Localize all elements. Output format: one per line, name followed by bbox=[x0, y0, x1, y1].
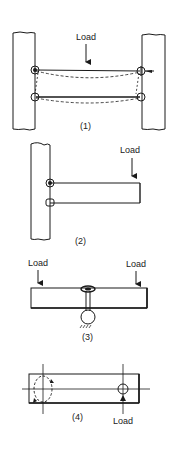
deflected-top-dashed bbox=[36, 71, 140, 78]
panel-caption: (1) bbox=[80, 121, 91, 131]
load-label-left: Load bbox=[28, 258, 48, 268]
right-plate bbox=[142, 34, 165, 130]
panel-caption: (3) bbox=[82, 332, 93, 342]
panel-1: Load (1) bbox=[13, 32, 165, 131]
load-label: Load bbox=[120, 145, 140, 155]
load-arrow-icon bbox=[120, 395, 126, 401]
pivot-support-icon bbox=[81, 310, 95, 324]
bolted-joint-diagram: Load (1) Load (2) Load Load (3) bbox=[0, 0, 172, 458]
top-member bbox=[36, 70, 140, 71]
left-plate bbox=[13, 32, 35, 130]
rotation-arrow-icon bbox=[50, 379, 54, 383]
right-dashed-link bbox=[136, 73, 139, 94]
panel-2: Load (2) bbox=[31, 143, 140, 246]
load-label: Load bbox=[113, 416, 133, 426]
deflected-bottom-dashed bbox=[36, 98, 140, 103]
load-label: Load bbox=[76, 32, 96, 42]
plate bbox=[31, 143, 50, 240]
bar bbox=[31, 288, 147, 308]
panel-4: Load (4) bbox=[22, 364, 150, 426]
ground-hatch-icon bbox=[80, 325, 91, 328]
load-label-right: Load bbox=[126, 259, 146, 269]
panel-3: Load Load (3) bbox=[28, 258, 147, 342]
panel-caption: (4) bbox=[72, 412, 83, 422]
panel-caption: (2) bbox=[75, 236, 86, 246]
